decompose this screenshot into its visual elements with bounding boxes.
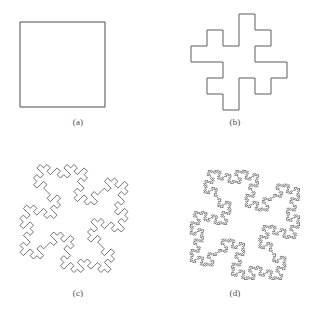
quadratic-koch-level-3-path: [190, 170, 300, 280]
quadratic-koch-level-1-path: [191, 14, 287, 110]
square-initiator-path: [20, 22, 105, 107]
quadratic-koch-level-2-path: [20, 165, 128, 273]
panel-b-caption: (b): [157, 117, 313, 127]
panel-c-caption: (c): [0, 288, 156, 298]
panel-b: (b): [157, 0, 313, 160]
panel-c: (c): [0, 160, 156, 321]
panel-b-fractal-canvas: [157, 0, 313, 125]
figure-root: (a) (b) (c) (d): [0, 0, 313, 321]
panel-a: (a): [0, 0, 156, 160]
panel-a-fractal-canvas: [0, 0, 156, 125]
panel-c-fractal-canvas: [0, 160, 156, 288]
panel-d-fractal-canvas: [157, 160, 313, 288]
panel-d-caption: (d): [157, 288, 313, 298]
panel-a-caption: (a): [0, 117, 156, 127]
panel-d: (d): [157, 160, 313, 321]
